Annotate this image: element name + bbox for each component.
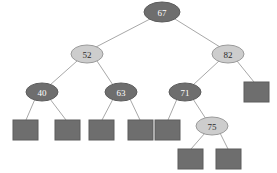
tree-node-67: 67: [144, 2, 180, 22]
tree-edge: [193, 99, 206, 119]
node-ellipse: [26, 83, 58, 101]
nil-leaf-node: [155, 120, 180, 140]
tree-edge: [193, 61, 219, 85]
red-black-tree-figure: 67528240637175: [0, 0, 277, 173]
nil-leaf-node: [55, 120, 80, 140]
tree-edge: [97, 61, 113, 85]
tree-edge: [50, 61, 77, 85]
nil-leaf-node: [216, 149, 241, 169]
tree-edge: [175, 19, 220, 47]
tree-edge: [96, 19, 150, 47]
tree-edge: [26, 99, 35, 120]
nil-leaf-node: [244, 82, 269, 102]
nil-leaf-node: [128, 120, 153, 140]
tree-edge: [50, 99, 66, 120]
tree-edge: [102, 99, 113, 120]
tree-node-75: 75: [196, 117, 228, 135]
tree-edge: [130, 99, 140, 120]
tree-canvas: 67528240637175: [0, 0, 277, 173]
tree-edge: [237, 61, 254, 82]
nil-leaf-node: [89, 120, 114, 140]
tree-edge: [168, 99, 177, 120]
node-ellipse: [196, 117, 228, 135]
tree-node-82: 82: [212, 45, 244, 63]
node-ellipse: [212, 45, 244, 63]
nil-leaf-node: [13, 120, 38, 140]
tree-node-52: 52: [71, 45, 103, 63]
tree-edge: [220, 133, 228, 149]
tree-node-63: 63: [105, 83, 137, 101]
node-ellipse: [169, 83, 201, 101]
tree-node-40: 40: [26, 83, 58, 101]
tree-node-71: 71: [169, 83, 201, 101]
node-ellipse: [105, 83, 137, 101]
tree-edge: [191, 133, 205, 149]
node-ellipse: [144, 2, 180, 22]
nil-leaf-node: [178, 149, 203, 169]
node-ellipse: [71, 45, 103, 63]
